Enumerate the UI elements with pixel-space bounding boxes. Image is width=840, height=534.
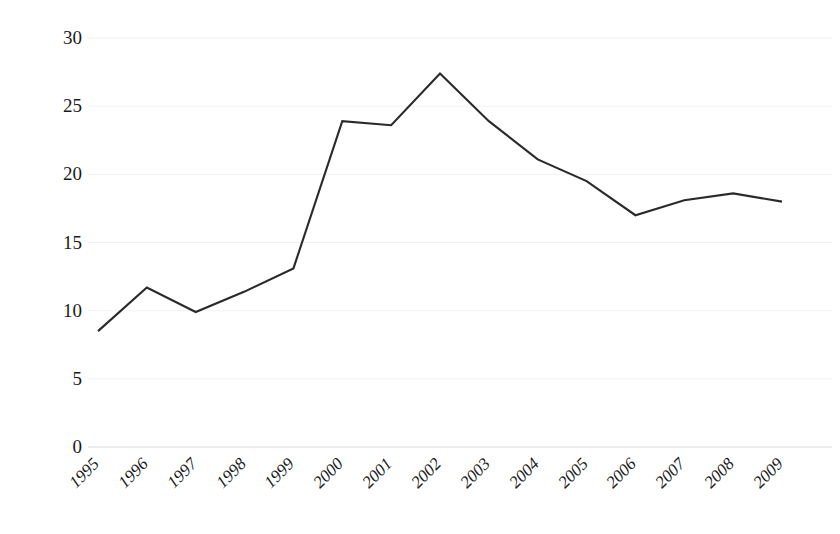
y-axis-tick-label: 30 [32, 28, 82, 47]
y-axis-tick-label: 5 [32, 369, 82, 388]
line-chart: 051015202530 199519961997199819992000200… [0, 0, 840, 534]
chart-canvas [0, 0, 840, 534]
y-axis-tick-label: 0 [32, 437, 82, 456]
y-axis-tick-label: 20 [32, 164, 82, 183]
y-axis-tick-label: 25 [32, 96, 82, 115]
gridlines [88, 38, 832, 447]
data-series-line [98, 73, 782, 331]
y-axis-tick-label: 15 [32, 233, 82, 252]
y-axis-tick-label: 10 [32, 301, 82, 320]
